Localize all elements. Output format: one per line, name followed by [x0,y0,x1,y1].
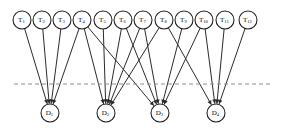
task-node-t1[interactable]: T1 [13,11,31,29]
device-node-d4[interactable]: D4 [207,104,225,122]
bipartite-assignment-figure: T1T2T3T4T5T6T7T8T9T10T11T12D1D2D3D4 [0,0,283,128]
task-node-t11[interactable]: T11 [216,11,234,29]
task-node-t5[interactable]: T5 [94,11,112,29]
edge-t1-to-d1 [25,29,48,104]
task-node-t9[interactable]: T9 [175,11,193,29]
task-node-t4[interactable]: T4 [73,11,91,29]
task-node-t7[interactable]: T7 [134,11,152,29]
task-node-t10[interactable]: T10 [195,11,213,29]
edge-t9-to-d3 [161,29,181,104]
edge-t3-to-d1 [50,29,61,104]
task-node-t3[interactable]: T3 [53,11,71,29]
device-node-d3[interactable]: D3 [151,104,169,122]
task-node-t12[interactable]: T12 [239,11,257,29]
graph-canvas: T1T2T3T4T5T6T7T8T9T10T11T12D1D2D3D4 [0,0,283,128]
edge-t8-to-d4 [168,28,211,105]
edge-t5-to-d2 [103,29,107,104]
edge-t12-to-d4 [218,29,245,105]
edge-t10-to-d3 [164,28,200,104]
task-node-t6[interactable]: T6 [114,11,132,29]
edge-t10-to-d4 [205,29,216,104]
task-node-t8[interactable]: T8 [155,11,173,29]
task-node-t2[interactable]: T2 [33,11,51,29]
device-node-d1[interactable]: D1 [41,104,59,122]
edge-t6-to-d3 [126,28,157,104]
arrow-head-icon [52,99,56,104]
edges-layer [25,27,245,106]
device-node-d2[interactable]: D2 [97,104,115,122]
edge-t4-to-d2 [84,29,104,104]
edge-t4-to-d3 [88,27,154,106]
arrow-head-icon [218,99,222,104]
